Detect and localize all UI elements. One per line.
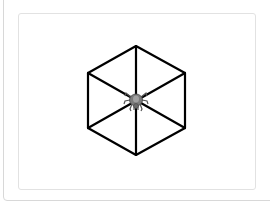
- game-board[interactable]: [0, 0, 270, 207]
